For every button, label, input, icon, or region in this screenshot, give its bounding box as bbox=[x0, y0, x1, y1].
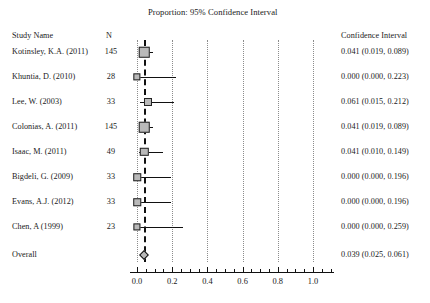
x-axis-minor-tick bbox=[269, 269, 270, 272]
x-axis-tick-label: 0.8 bbox=[273, 277, 283, 286]
point-estimate-marker bbox=[140, 148, 148, 156]
plot-title: Proportion: 95% Confidence Interval bbox=[148, 8, 277, 17]
x-axis-minor-tick bbox=[331, 269, 332, 272]
study-name-label: Chen, A (1999) bbox=[12, 223, 63, 231]
x-axis-minor-tick bbox=[199, 269, 200, 272]
x-axis-major-tick bbox=[172, 267, 173, 272]
x-axis-tick-label: 0.4 bbox=[202, 277, 212, 286]
confidence-interval-whisker bbox=[137, 202, 171, 203]
confidence-interval-value: 0.000 (0.000, 0.223) bbox=[341, 73, 409, 81]
x-axis-minor-tick bbox=[190, 269, 191, 272]
gridline bbox=[172, 40, 173, 262]
confidence-interval-whisker bbox=[137, 77, 176, 78]
confidence-interval-value: 0.041 (0.019, 0.089) bbox=[341, 48, 409, 56]
x-axis-tick-label: 0.2 bbox=[167, 277, 177, 286]
x-axis-major-tick bbox=[278, 267, 279, 272]
gridline bbox=[313, 40, 314, 262]
x-axis-line bbox=[130, 272, 334, 273]
confidence-interval-value: 0.039 (0.025, 0.061) bbox=[341, 251, 409, 259]
column-header-study-name: Study Name bbox=[12, 32, 53, 40]
x-axis-tick-label: 0.0 bbox=[132, 277, 142, 286]
point-estimate-marker bbox=[144, 98, 152, 106]
study-name-label: Kotinsley, K.A. (2011) bbox=[12, 48, 88, 56]
x-axis-minor-tick bbox=[234, 269, 235, 272]
x-axis-minor-tick bbox=[163, 269, 164, 272]
gridline bbox=[243, 40, 244, 262]
x-axis-minor-tick bbox=[295, 269, 296, 272]
confidence-interval-value: 0.061 (0.015, 0.212) bbox=[341, 98, 409, 106]
study-name-label: Evans, A.J. (2012) bbox=[12, 198, 74, 206]
confidence-interval-whisker bbox=[137, 227, 183, 228]
sample-size-value: 28 bbox=[102, 73, 120, 81]
study-name-label: Colonias, A. (2011) bbox=[12, 123, 77, 131]
sample-size-value: 33 bbox=[102, 173, 120, 181]
study-name-label: Overall bbox=[12, 251, 37, 259]
sample-size-value: 23 bbox=[102, 223, 120, 231]
x-axis-minor-tick bbox=[155, 269, 156, 272]
sample-size-value: 145 bbox=[102, 48, 120, 56]
gridline bbox=[207, 40, 208, 262]
sample-size-value: 33 bbox=[102, 198, 120, 206]
confidence-interval-whisker bbox=[137, 177, 171, 178]
x-axis-minor-tick bbox=[181, 269, 182, 272]
x-axis-minor-tick bbox=[146, 269, 147, 272]
x-axis-tick-label: 1.0 bbox=[308, 277, 318, 286]
study-name-label: Lee, W. (2003) bbox=[12, 98, 62, 106]
study-name-label: Bigdeli, G. (2009) bbox=[12, 173, 73, 181]
x-axis-major-tick bbox=[243, 267, 244, 272]
confidence-interval-value: 0.041 (0.010, 0.149) bbox=[341, 148, 409, 156]
x-axis-major-tick bbox=[137, 267, 138, 272]
x-axis-tick-label: 0.6 bbox=[237, 277, 247, 286]
sample-size-value: 49 bbox=[102, 148, 120, 156]
gridline bbox=[278, 40, 279, 262]
x-axis-minor-tick bbox=[251, 269, 252, 272]
study-name-label: Isaac, M. (2011) bbox=[12, 148, 67, 156]
x-axis-minor-tick bbox=[225, 269, 226, 272]
confidence-interval-value: 0.041 (0.019, 0.089) bbox=[341, 123, 409, 131]
x-axis-minor-tick bbox=[322, 269, 323, 272]
x-axis-minor-tick bbox=[287, 269, 288, 272]
point-estimate-marker bbox=[133, 198, 141, 206]
x-axis-minor-tick bbox=[260, 269, 261, 272]
x-axis-major-tick bbox=[207, 267, 208, 272]
overall-summary-diamond bbox=[139, 250, 149, 260]
x-axis-minor-tick bbox=[304, 269, 305, 272]
column-header-confidence-interval: Confidence Interval bbox=[341, 32, 407, 40]
sample-size-value: 33 bbox=[102, 98, 120, 106]
x-axis-major-tick bbox=[313, 267, 314, 272]
forest-plot: Proportion: 95% Confidence Interval Stud… bbox=[0, 0, 430, 303]
point-estimate-marker bbox=[133, 173, 141, 181]
column-header-n: N bbox=[106, 32, 112, 40]
confidence-interval-value: 0.000 (0.000, 0.259) bbox=[341, 223, 409, 231]
x-axis-minor-tick bbox=[216, 269, 217, 272]
point-estimate-marker bbox=[139, 122, 150, 133]
point-estimate-marker bbox=[133, 73, 140, 80]
confidence-interval-value: 0.000 (0.000, 0.196) bbox=[341, 173, 409, 181]
confidence-interval-value: 0.000 (0.000, 0.196) bbox=[341, 198, 409, 206]
sample-size-value: 145 bbox=[102, 123, 120, 131]
point-estimate-marker bbox=[133, 223, 140, 230]
study-name-label: Khuntia, D. (2010) bbox=[12, 73, 75, 81]
point-estimate-marker bbox=[139, 47, 150, 58]
